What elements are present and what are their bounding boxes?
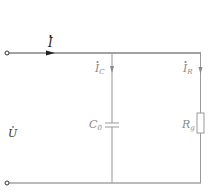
top-terminal bbox=[5, 51, 9, 55]
voltage-label: U bbox=[8, 128, 17, 139]
cap-current-label: IC bbox=[95, 63, 105, 76]
res-current-label: IR bbox=[183, 63, 193, 76]
cap-current-arrow-icon bbox=[110, 66, 114, 73]
source-current-label: I bbox=[48, 37, 53, 49]
res-current-arrow-icon bbox=[199, 67, 203, 74]
capacitor-label: C0 bbox=[89, 119, 102, 132]
circuit-diagram bbox=[0, 0, 208, 192]
resistor-label: Rg bbox=[182, 119, 195, 132]
source-current-arrow-icon bbox=[46, 51, 55, 56]
resistor-body bbox=[197, 113, 204, 133]
bottom-terminal bbox=[5, 181, 9, 185]
